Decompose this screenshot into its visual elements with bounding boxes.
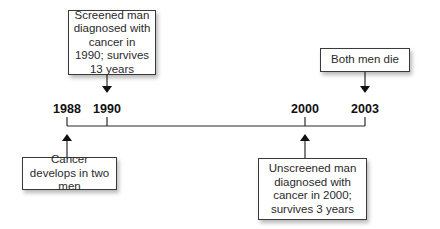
year-label-1988: 1988	[53, 102, 81, 116]
unscreened-man-box: Unscreened man diagnosed with cancer in …	[258, 158, 367, 220]
year-label-2003: 2003	[351, 102, 379, 116]
both-men-die-box: Both men die	[320, 48, 410, 72]
arrow-down-icon	[360, 72, 370, 93]
year-label-2000: 2000	[291, 102, 319, 116]
year-label-1990: 1990	[93, 102, 121, 116]
arrow-up-icon	[300, 134, 310, 158]
screened-man-box: Screened man diagnosed with cancer in 19…	[68, 10, 156, 75]
cancer-develops-box: Cancer develops in two men	[22, 157, 117, 190]
arrow-down-icon	[102, 75, 112, 93]
